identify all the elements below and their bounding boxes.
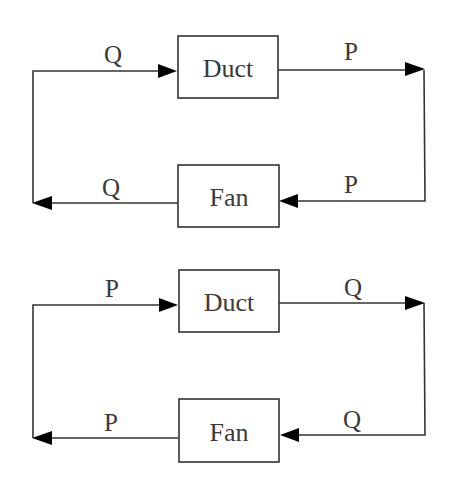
wire-left-return [33, 305, 166, 438]
signal-label-bottom-right: Q [343, 406, 361, 433]
fan-block: Fan [178, 165, 279, 227]
signal-label-top-left: Q [104, 41, 122, 68]
signal-label-bottom-left: Q [102, 174, 120, 201]
duct-block: Duct [179, 270, 279, 332]
arrowhead-into-fan-icon [279, 194, 298, 208]
signal-label-top-left: P [105, 275, 119, 302]
fan-block: Fan [179, 399, 279, 462]
signal-label-top-right: Q [344, 274, 362, 301]
fan-block-label: Fan [210, 418, 249, 447]
signal-label-bottom-left: P [104, 409, 118, 436]
block-diagrams: Duct Fan Q P P Q Duct Fan P [0, 0, 450, 477]
arrowhead-right-corner-icon [405, 296, 425, 310]
arrowhead-right-corner-icon [405, 62, 425, 76]
arrowhead-into-fan-icon [280, 428, 299, 442]
duct-block-label: Duct [203, 54, 254, 83]
arrowhead-into-duct-icon [158, 64, 177, 78]
signal-label-bottom-right: P [344, 171, 358, 198]
duct-block-label: Duct [204, 288, 255, 317]
arrowhead-left-corner-icon [32, 196, 52, 210]
diagram-1: Duct Fan Q P P Q [32, 36, 425, 227]
signal-label-top-right: P [344, 38, 358, 65]
fan-block-label: Fan [210, 183, 249, 212]
arrowhead-left-corner-icon [32, 431, 52, 445]
arrowhead-into-duct-icon [159, 298, 178, 312]
duct-block: Duct [178, 36, 278, 98]
wire-left-return [33, 71, 166, 203]
wire-right-feedback [292, 70, 425, 201]
diagram-2: Duct Fan P Q Q P [32, 270, 425, 462]
